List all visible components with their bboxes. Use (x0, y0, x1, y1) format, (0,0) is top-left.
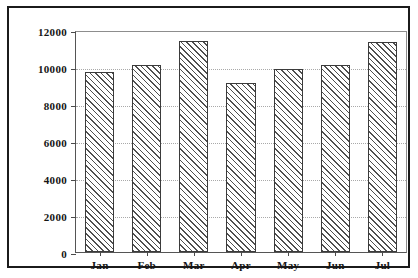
xtick-label-feb: Feb (137, 259, 156, 271)
ytick-label-8000: 8000 (44, 100, 67, 112)
ytick-label-0: 0 (61, 248, 67, 260)
bar-slot (368, 32, 397, 252)
bar-slot (132, 32, 161, 252)
xtick-label-mar: Mar (183, 259, 205, 271)
xtick-mark-may (288, 252, 289, 256)
xtick-mark-feb (147, 252, 148, 256)
xtick-mark-jan (100, 252, 101, 256)
xtick-label-may: May (277, 259, 299, 271)
bar-slot (85, 32, 114, 252)
ytick-mark-0 (71, 254, 76, 255)
xtick-mark-apr (241, 252, 242, 256)
bar-feb[interactable] (132, 65, 161, 252)
chart-figure: 0 2000 4000 6000 8000 10000 12000 JanFeb… (0, 0, 418, 278)
bar-series: JanFebMarAprMayJunJul (76, 32, 406, 252)
bar-apr[interactable] (226, 83, 255, 252)
ytick-label-6000: 6000 (44, 137, 67, 149)
bar-mar[interactable] (179, 41, 208, 252)
xtick-mark-jun (335, 252, 336, 256)
ytick-label-4000: 4000 (44, 174, 67, 186)
xtick-mark-jul (382, 252, 383, 256)
xtick-label-jun: Jun (326, 259, 345, 271)
bar-jul[interactable] (368, 42, 397, 252)
xtick-label-jul: Jul (375, 259, 391, 271)
ytick-label-10000: 10000 (38, 63, 67, 75)
bar-may[interactable] (274, 69, 303, 252)
xtick-label-jan: Jan (91, 259, 109, 271)
bar-slot (321, 32, 350, 252)
bar-jan[interactable] (85, 72, 114, 252)
figure-border: 0 2000 4000 6000 8000 10000 12000 JanFeb… (7, 6, 410, 268)
bar-slot (274, 32, 303, 252)
bar-slot (179, 32, 208, 252)
xtick-mark-mar (194, 252, 195, 256)
xtick-label-apr: Apr (231, 259, 251, 271)
ytick-label-12000: 12000 (38, 26, 67, 38)
bar-slot (226, 32, 255, 252)
plot-area: 0 2000 4000 6000 8000 10000 12000 JanFeb… (75, 31, 407, 253)
bar-jun[interactable] (321, 65, 350, 252)
ytick-label-2000: 2000 (44, 211, 67, 223)
